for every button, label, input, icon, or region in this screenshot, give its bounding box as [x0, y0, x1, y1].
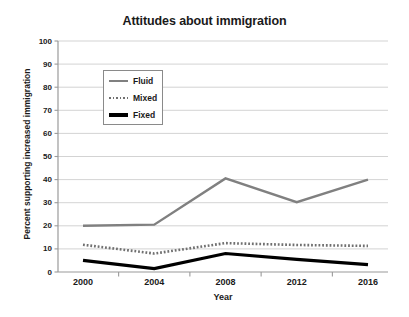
x-axis-ticks [119, 272, 333, 277]
y-tick-label: 90 [22, 60, 52, 69]
legend-label-fixed: Fixed [133, 110, 155, 120]
chart-canvas [0, 0, 409, 317]
y-tick-label: 60 [22, 129, 52, 138]
chart-legend: Fluid Mixed Fixed [103, 70, 163, 125]
y-tick-label: 50 [22, 152, 52, 161]
x-tick-label: 2012 [267, 277, 327, 287]
legend-label-fluid: Fluid [133, 76, 153, 86]
legend-label-mixed: Mixed [133, 93, 157, 103]
fluid-line-swatch-icon [109, 76, 128, 86]
mixed-dotted-swatch-icon [109, 93, 128, 103]
immigration-attitudes-chart: Attitudes about immigration Percent supp… [0, 0, 409, 317]
y-tick-label: 70 [22, 106, 52, 115]
y-tick-label: 100 [22, 37, 52, 46]
legend-item-fluid: Fluid [104, 73, 164, 89]
y-tick-label: 80 [22, 83, 52, 92]
series-line-fixed [83, 254, 368, 269]
x-tick-label: 2000 [53, 277, 113, 287]
fixed-line-swatch-icon [109, 110, 128, 120]
x-tick-label: 2016 [338, 277, 398, 287]
x-tick-label: 2008 [196, 277, 256, 287]
y-tick-label: 10 [22, 244, 52, 253]
legend-item-mixed: Mixed [104, 90, 164, 106]
y-tick-label: 20 [22, 221, 52, 230]
y-tick-label: 40 [22, 175, 52, 184]
data-series-layer [83, 178, 368, 268]
y-tick-label: 0 [22, 268, 52, 277]
y-tick-label: 30 [22, 198, 52, 207]
series-line-fluid [83, 178, 368, 225]
legend-item-fixed: Fixed [104, 107, 164, 123]
x-tick-label: 2004 [124, 277, 184, 287]
